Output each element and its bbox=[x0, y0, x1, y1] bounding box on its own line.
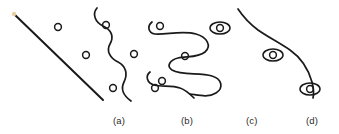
panel-d-circle-2 bbox=[270, 52, 277, 59]
panel-label-b: (b) bbox=[181, 115, 193, 126]
panel-a-circle-1 bbox=[55, 24, 62, 31]
panel-d-ellipse-3 bbox=[300, 83, 320, 95]
panel-c-circle-2 bbox=[182, 53, 189, 60]
figure-drawing bbox=[0, 0, 339, 134]
panel-d-circle-1 bbox=[217, 25, 224, 32]
panel-label-a: (a) bbox=[113, 115, 125, 126]
panel-a-straight-line bbox=[14, 14, 103, 100]
panel-c-hooked-curve-lower bbox=[147, 72, 194, 98]
panel-a-circle-3 bbox=[110, 85, 117, 92]
panel-b-circle-2 bbox=[131, 51, 138, 58]
panel-c-circle-1 bbox=[157, 23, 164, 30]
panel-label-c: (c) bbox=[246, 115, 258, 126]
panel-c-circle-3 bbox=[159, 78, 166, 85]
panel-d-ellipse-2 bbox=[263, 49, 283, 61]
panel-d-group bbox=[210, 9, 320, 98]
ink-speck-icon bbox=[12, 12, 16, 16]
panel-a-circle-2 bbox=[83, 52, 90, 59]
panel-label-d: (d) bbox=[306, 115, 318, 126]
figure-canvas: (a) (b) (c) (d) bbox=[0, 0, 339, 134]
panel-b-group bbox=[95, 8, 159, 101]
panel-d-ellipse-1 bbox=[210, 22, 230, 34]
panel-b-wavy-curve bbox=[95, 8, 131, 101]
panel-d-circle-3 bbox=[307, 86, 314, 93]
